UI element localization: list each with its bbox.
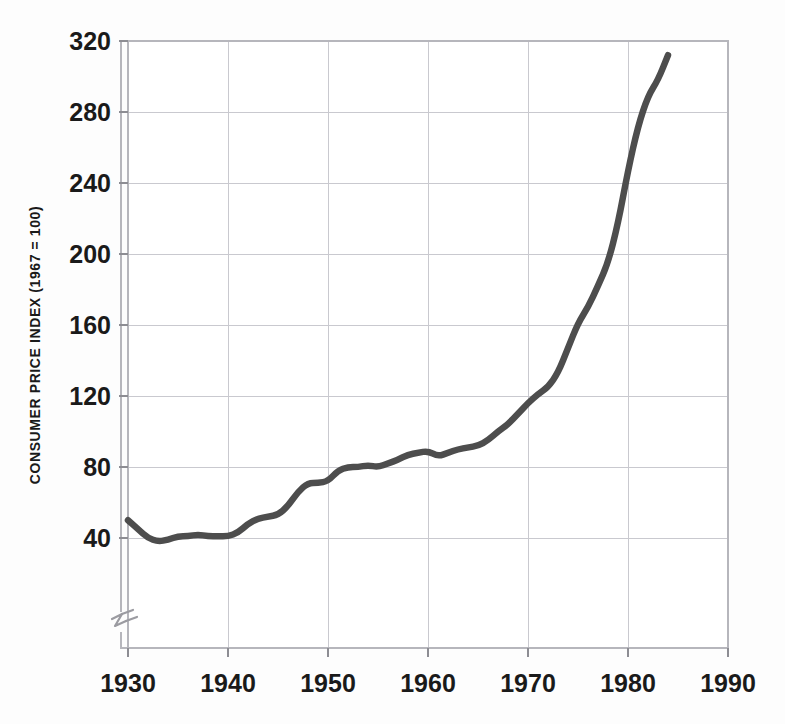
y-tick-label-120: 120 bbox=[69, 382, 111, 410]
y-axis-title: CONSUMER PRICE INDEX (1967 = 100) bbox=[27, 206, 43, 485]
x-tick-label-1950: 1950 bbox=[300, 669, 356, 697]
y-tick-label-200: 200 bbox=[69, 240, 111, 268]
chart-canvas: 4080120160200240280320 19301940195019601… bbox=[0, 0, 785, 724]
y-tick-label-40: 40 bbox=[83, 524, 111, 552]
x-tick-label-1970: 1970 bbox=[500, 669, 556, 697]
cpi-line-chart-figure: 4080120160200240280320 19301940195019601… bbox=[0, 0, 785, 724]
y-tick-label-160: 160 bbox=[69, 311, 111, 339]
y-tick-label-240: 240 bbox=[69, 169, 111, 197]
x-tick-label-1960: 1960 bbox=[400, 669, 456, 697]
x-tick-label-1940: 1940 bbox=[200, 669, 256, 697]
y-tick-label-320: 320 bbox=[69, 27, 111, 55]
y-tick-label-80: 80 bbox=[83, 453, 111, 481]
x-tick-label-1990: 1990 bbox=[700, 669, 756, 697]
y-tick-label-280: 280 bbox=[69, 98, 111, 126]
x-tick-label-1980: 1980 bbox=[600, 669, 656, 697]
x-tick-label-1930: 1930 bbox=[100, 669, 156, 697]
